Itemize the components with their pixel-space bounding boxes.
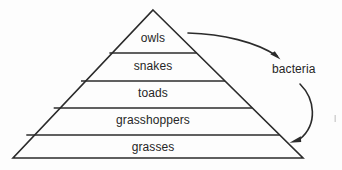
- pyramid-tier-label-grasshoppers: grasshoppers: [116, 113, 190, 127]
- pyramid-tier-label-owls: owls: [141, 31, 165, 45]
- pyramid-tier-label-toads: toads: [138, 86, 168, 100]
- pyramid-tier-label-grasses: grasses: [132, 140, 175, 154]
- decomposer-label-bacteria: bacteria: [272, 62, 316, 76]
- energy-pyramid-diagram: owls snakes toads grasshoppers grasses b…: [0, 0, 342, 170]
- scan-artifact-speck: [335, 115, 336, 122]
- arrow-owls-to-bacteria: [188, 33, 277, 56]
- arrow-bacteria-to-grasses: [300, 84, 312, 139]
- arrowhead-bacteria-to-grasses: [290, 136, 302, 143]
- pyramid-tier-label-snakes: snakes: [134, 59, 173, 73]
